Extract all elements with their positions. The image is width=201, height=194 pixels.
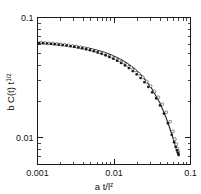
data-point-filled	[53, 43, 56, 46]
data-point-open	[110, 55, 113, 58]
data-point-filled	[104, 54, 107, 57]
data-point-filled	[100, 52, 103, 55]
data-point-filled	[135, 73, 138, 76]
data-point-square	[73, 46, 75, 48]
data-point-filled	[151, 91, 154, 94]
data-point-square	[143, 81, 145, 83]
y-axis-tick-labels: 0.10.01	[16, 13, 34, 143]
data-point-square	[174, 146, 176, 148]
svg-text:a t/lz: a t/lz	[95, 181, 114, 193]
data-point-square	[61, 44, 63, 46]
data-point-square	[50, 43, 52, 45]
plot-frame	[38, 18, 191, 165]
data-point-filled	[112, 57, 115, 60]
data-point-open	[145, 80, 148, 83]
data-point-square	[132, 70, 134, 72]
data-point-filled	[159, 104, 162, 107]
figure-container: 0.0010.010.1 0.10.01 a t/lz b C(t) t1/z	[0, 0, 201, 194]
data-point-open	[175, 143, 178, 146]
x-tick-label: 0.001	[26, 168, 49, 178]
x-tick-label: 0.1	[184, 168, 197, 178]
data-point-filled	[77, 46, 80, 49]
data-point-open	[157, 96, 160, 99]
data-point-filled	[57, 43, 60, 46]
data-point-filled	[177, 154, 180, 157]
data-point-square	[96, 51, 98, 53]
scaling-collapse-plot: 0.0010.010.1 0.10.01 a t/lz b C(t) t1/z	[0, 0, 201, 194]
data-point-open	[122, 61, 125, 64]
data-point-square	[38, 42, 40, 44]
y-axis-title: b C(t) t1/z	[5, 73, 17, 111]
x-axis-tick-labels: 0.0010.010.1	[26, 168, 197, 178]
data-point-filled	[124, 64, 127, 67]
data-point-filled	[69, 45, 72, 48]
data-point-filled	[147, 86, 150, 89]
data-point-square	[120, 62, 122, 64]
data-point-open	[169, 120, 172, 123]
data-point-square	[108, 56, 110, 58]
data-point-filled	[173, 141, 176, 144]
data-point-filled	[170, 133, 173, 136]
data-point-square	[85, 48, 87, 50]
data-point-open	[134, 69, 137, 72]
data-point-open	[173, 138, 176, 141]
data-point-filled	[116, 59, 119, 62]
data-point-square	[155, 97, 157, 99]
data-point-filled	[46, 42, 49, 45]
x-axis-ticks	[38, 18, 191, 165]
y-axis-ticks	[38, 18, 191, 165]
data-point-filled	[127, 67, 130, 70]
x-tick-label: 0.01	[105, 168, 123, 178]
data-point-filled	[81, 47, 84, 50]
data-point-filled	[139, 77, 142, 80]
data-point-open	[172, 130, 175, 133]
data-point-filled	[176, 149, 179, 152]
svg-text:b C(t) t1/z: b C(t) t1/z	[5, 73, 17, 111]
y-tick-label: 0.01	[16, 133, 34, 143]
data-point-filled	[163, 112, 166, 115]
x-axis-title: a t/lz	[95, 181, 114, 193]
master-curve	[38, 43, 179, 156]
data-point-filled	[65, 44, 68, 47]
data-point-filled	[92, 50, 95, 53]
data-point-filled	[89, 49, 92, 52]
y-tick-label: 0.1	[21, 13, 34, 23]
master-curve-path	[38, 43, 179, 156]
data-point-filled	[42, 42, 45, 45]
data-point-square	[167, 122, 169, 124]
